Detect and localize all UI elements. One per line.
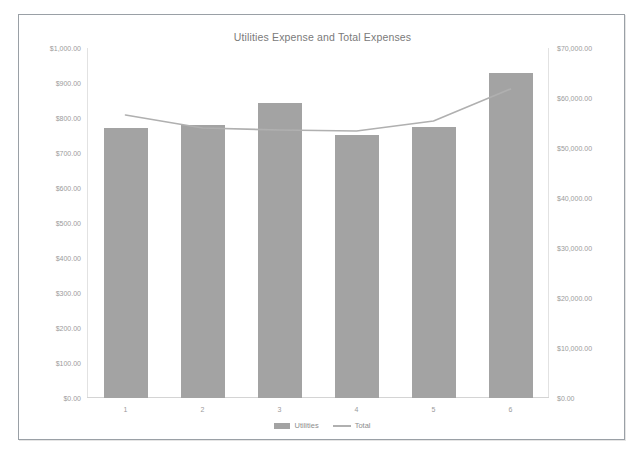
x-tick-label: 5	[432, 406, 436, 413]
legend-item-total[interactable]: Total	[333, 421, 371, 430]
x-tick-label: 1	[124, 406, 128, 413]
x-tick-label: 2	[201, 406, 205, 413]
right-tick-label: $70,000.00	[557, 45, 592, 52]
chart-legend: Utilities Total	[19, 421, 626, 430]
left-tick-label: $600.00	[56, 185, 81, 192]
x-tick-label: 6	[509, 406, 513, 413]
right-tick-label: $0.00	[557, 395, 575, 402]
line-swatch-icon	[333, 425, 351, 427]
right-tick-label: $30,000.00	[557, 245, 592, 252]
line-series-total	[87, 48, 549, 398]
legend-label-utilities: Utilities	[294, 421, 318, 430]
left-tick-label: $300.00	[56, 290, 81, 297]
x-tick-label: 4	[355, 406, 359, 413]
left-tick-label: $700.00	[56, 150, 81, 157]
right-tick-label: $60,000.00	[557, 95, 592, 102]
left-tick-label: $200.00	[56, 325, 81, 332]
left-tick-label: $1,000.00	[50, 45, 81, 52]
right-tick-label: $40,000.00	[557, 195, 592, 202]
bar-swatch-icon	[274, 423, 290, 429]
legend-label-total: Total	[355, 421, 371, 430]
legend-item-utilities[interactable]: Utilities	[274, 421, 318, 430]
right-tick-label: $50,000.00	[557, 145, 592, 152]
chart-title: Utilities Expense and Total Expenses	[19, 31, 626, 43]
right-tick-label: $10,000.00	[557, 345, 592, 352]
right-tick-label: $20,000.00	[557, 295, 592, 302]
plot-area: $1,000.00$900.00$800.00$700.00$600.00$50…	[87, 48, 549, 398]
x-tick-label: 3	[278, 406, 282, 413]
left-tick-label: $800.00	[56, 115, 81, 122]
left-tick-label: $100.00	[56, 360, 81, 367]
left-tick-label: $400.00	[56, 255, 81, 262]
chart-container[interactable]: Utilities Expense and Total Expenses $1,…	[18, 14, 625, 440]
left-tick-label: $0.00	[63, 395, 81, 402]
left-tick-label: $900.00	[56, 80, 81, 87]
left-tick-label: $500.00	[56, 220, 81, 227]
